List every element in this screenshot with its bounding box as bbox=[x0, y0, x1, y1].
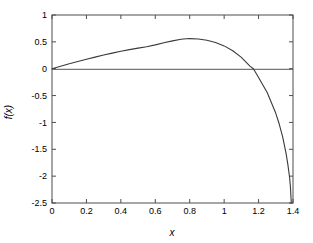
y-tick-label: -2 bbox=[39, 171, 47, 181]
x-tick-label: 1 bbox=[222, 206, 227, 216]
chart-figure: 00.20.40.60.811.21.4 10.50-0.5-1-1.5-2-2… bbox=[0, 0, 313, 243]
y-tick-label: -1.5 bbox=[31, 144, 47, 154]
x-tick-label: 1.2 bbox=[252, 206, 265, 216]
x-tick-label: 1.4 bbox=[287, 206, 300, 216]
x-axis-title: x bbox=[169, 227, 176, 238]
y-tick-label: 0 bbox=[42, 64, 47, 74]
y-axis-title: f(x) bbox=[3, 105, 14, 119]
y-tick-label: 0.5 bbox=[34, 37, 47, 47]
y-tick-label: -0.5 bbox=[31, 91, 47, 101]
x-tick-label: 0.6 bbox=[149, 206, 162, 216]
x-tick-label: 0.4 bbox=[115, 206, 128, 216]
y-tick-label: 1 bbox=[42, 10, 47, 20]
x-tick-label: 0.8 bbox=[183, 206, 196, 216]
y-tick-label: -1 bbox=[39, 118, 47, 128]
x-tick-label: 0 bbox=[49, 206, 54, 216]
y-tick-label: -2.5 bbox=[31, 198, 47, 208]
x-tick-label: 0.2 bbox=[80, 206, 93, 216]
